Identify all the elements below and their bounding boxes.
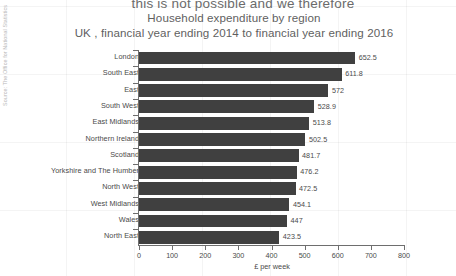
x-axis-tick: [139, 246, 140, 250]
chart-title-block: Household expenditure by region UK , fin…: [24, 11, 444, 40]
x-axis-tick-label: 800: [398, 251, 410, 260]
x-axis-tick: [305, 246, 306, 250]
bar: [139, 68, 342, 81]
chart-title: Household expenditure by region: [24, 11, 444, 26]
x-axis-tick: [371, 246, 372, 250]
x-axis-tick-label: 400: [266, 251, 278, 260]
category-label: London: [114, 52, 139, 61]
plot-area: London652.5South East611.8East572South W…: [0, 50, 456, 250]
household-expenditure-bar-chart: Household expenditure by region UK , fin…: [0, 0, 456, 276]
chart-source-note: Source: The Office for National Statisti…: [2, 0, 8, 106]
bar-value-label: 476.2: [300, 167, 318, 176]
bar: [139, 133, 305, 146]
bar-value-label: 454.1: [293, 200, 311, 209]
x-axis-tick-label: 500: [299, 251, 311, 260]
bar-row: East Midlands513.8: [0, 115, 456, 131]
x-axis-tick: [238, 246, 239, 250]
bar: [139, 84, 328, 97]
document-text-excerpt: this is not possible and we therefore: [0, 0, 456, 11]
category-label: Northern Ireland: [85, 134, 139, 143]
bar-row: Wales447: [0, 213, 456, 229]
x-axis-tick-label: 200: [199, 251, 211, 260]
bar-row: Northern Ireland502.5: [0, 132, 456, 148]
bar-row: Scotland481.7: [0, 148, 456, 164]
category-label: North East: [104, 231, 139, 240]
category-label: East Midlands: [93, 117, 139, 126]
x-axis-tick: [172, 246, 173, 250]
bar: [139, 52, 355, 65]
x-axis-tick-label: 100: [166, 251, 178, 260]
x-axis-tick-label: 0: [137, 251, 141, 260]
bar: [139, 117, 309, 130]
bar: [139, 231, 279, 244]
bar-value-label: 652.5: [359, 53, 377, 62]
x-axis-tick-label: 300: [232, 251, 244, 260]
bar-row: Yorkshire and The Humber476.2: [0, 164, 456, 180]
chart-subtitle: UK , financial year ending 2014 to finan…: [24, 26, 444, 41]
x-axis-tick: [404, 246, 405, 250]
bar-row: North East423.5: [0, 229, 456, 245]
category-label: South East: [103, 68, 139, 77]
bar: [139, 198, 289, 211]
bar-value-label: 528.9: [318, 102, 336, 111]
category-label: Yorkshire and The Humber: [51, 166, 139, 175]
x-axis-tick-label: 600: [332, 251, 344, 260]
bar-value-label: 572: [332, 86, 344, 95]
x-axis-tick: [272, 246, 273, 250]
bar-value-label: 513.8: [313, 118, 331, 127]
bar: [139, 166, 297, 179]
x-axis-tick: [338, 246, 339, 250]
x-axis-title: £ per week: [139, 262, 405, 271]
bar-row: South West528.9: [0, 99, 456, 115]
bar-value-label: 611.8: [345, 69, 363, 78]
bar-row: West Midlands454.1: [0, 197, 456, 213]
category-label: Scotland: [110, 150, 139, 159]
y-axis-line: [138, 50, 139, 246]
bar-value-label: 502.5: [309, 135, 327, 144]
x-axis-tick: [205, 246, 206, 250]
x-axis-tick-label: 700: [365, 251, 377, 260]
bar-row: South East611.8: [0, 66, 456, 82]
category-label: North West: [102, 182, 139, 191]
bar: [139, 215, 287, 228]
bar-row: East572: [0, 83, 456, 99]
bar-value-label: 423.5: [283, 232, 301, 241]
bar-row: London652.5: [0, 50, 456, 66]
category-label: Wales: [119, 215, 139, 224]
category-label: South West: [101, 101, 139, 110]
bar: [139, 149, 299, 162]
bar: [139, 182, 296, 195]
bar-value-label: 481.7: [302, 151, 320, 160]
bar-value-label: 472.5: [299, 184, 317, 193]
bar: [139, 100, 314, 113]
category-label: West Midlands: [91, 199, 139, 208]
bar-value-label: 447: [291, 216, 303, 225]
category-label: East: [124, 85, 139, 94]
bar-row: North West472.5: [0, 180, 456, 196]
